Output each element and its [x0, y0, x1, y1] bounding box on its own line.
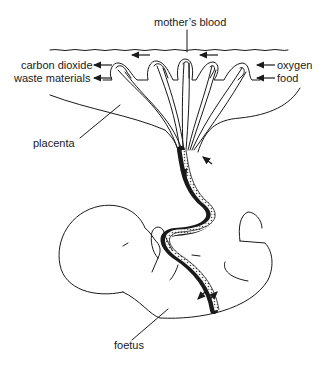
foetus-head: [59, 205, 160, 294]
label-oxygen: oxygen: [277, 59, 312, 71]
label-placenta: placenta: [33, 137, 75, 149]
label-carbon-dioxide: carbon dioxide: [21, 59, 93, 71]
label-food: food: [277, 72, 298, 84]
placenta-diagram: mother’s blood carbon dioxide waste mate…: [0, 0, 325, 372]
mothers-blood-boundary: [50, 50, 288, 51]
label-mothers-blood: mother’s blood: [154, 16, 226, 28]
umbilical-cord: [164, 150, 219, 310]
diagram-drawing: [0, 0, 325, 372]
foetus-foot: [239, 212, 262, 241]
label-waste-materials: waste materials: [14, 72, 90, 84]
foetus-drawing: [59, 205, 272, 318]
label-foetus: foetus: [114, 339, 144, 351]
